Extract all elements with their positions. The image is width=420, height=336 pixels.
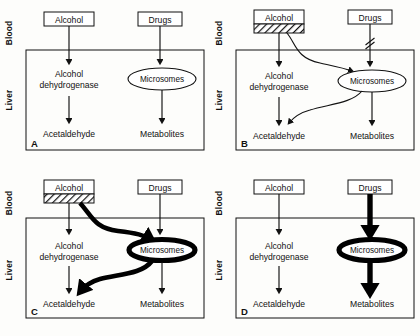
panel-a-metabolites-label: Metabolites: [140, 129, 184, 139]
panel-a-adh-label-line1: Alcohol: [55, 69, 83, 79]
panel-a-acetaldehyde-label: Acetaldehyde: [43, 129, 95, 139]
panel-a-liver-label: Liver: [4, 89, 14, 111]
panel-c-drugs-label: Drugs: [149, 183, 172, 193]
panel-a-alcohol-label: Alcohol: [55, 15, 83, 25]
panel-a-microsomes-label: Microsomes: [140, 75, 184, 84]
panel-d-adh-label-line1: Alcohol: [265, 241, 293, 251]
panel-b-drugs-label: Drugs: [359, 13, 382, 23]
panel-b-liver-label: Liver: [214, 89, 224, 111]
panel-c-adh-label-line2: dehydrogenase: [39, 252, 98, 262]
panel-c-alcohol-load-hatch: [44, 194, 94, 203]
panel-c-alcohol-label: Alcohol: [55, 183, 83, 193]
panel-c-metabolites-label: Metabolites: [140, 299, 184, 309]
panel-c-blood-label: Blood: [4, 191, 14, 216]
panel-c-adh-label-line1: Alcohol: [55, 241, 83, 251]
figure-container: Blood Liver Alcohol Drugs Alcohol dehydr…: [0, 0, 420, 336]
panel-d-microsomes-label: Microsomes: [350, 246, 394, 255]
panel-c-liver-label: Liver: [4, 259, 14, 281]
panel-b-adh-label-line2: dehydrogenase: [249, 82, 308, 92]
panel-a-adh-label-line2: dehydrogenase: [39, 80, 98, 90]
panel-d-alcohol-label: Alcohol: [265, 183, 293, 193]
panel-d-letter: D: [241, 306, 248, 317]
panel-c-microsomes-label: Microsomes: [140, 246, 184, 255]
panel-d-adh-label-line2: dehydrogenase: [249, 252, 308, 262]
panel-c-acetaldehyde-label: Acetaldehyde: [43, 299, 95, 309]
panel-b-alcohol-label: Alcohol: [265, 13, 293, 23]
panel-d-metabolites-label: Metabolites: [350, 299, 394, 309]
panel-a-blood-label: Blood: [4, 21, 14, 46]
panel-b-metabolites-label: Metabolites: [350, 131, 394, 141]
panel-a-letter: A: [31, 138, 38, 149]
panel-a-drugs-label: Drugs: [149, 15, 172, 25]
panel-b-microsomes-label: Microsomes: [350, 77, 394, 86]
panel-b-adh-label-line1: Alcohol: [265, 71, 293, 81]
panel-b-blood-label: Blood: [214, 21, 224, 46]
panel-b-letter: B: [241, 138, 248, 149]
panel-c-letter: C: [31, 306, 38, 317]
panel-d-acetaldehyde-label: Acetaldehyde: [253, 299, 305, 309]
panel-d-drugs-label: Drugs: [359, 183, 382, 193]
panel-b-acetaldehyde-label: Acetaldehyde: [253, 131, 305, 141]
panel-d-blood-label: Blood: [214, 191, 224, 216]
panel-b-alcohol-load-hatch: [254, 24, 304, 33]
panel-d-liver-label: Liver: [214, 259, 224, 281]
metabolism-diagram: Blood Liver Alcohol Drugs Alcohol dehydr…: [0, 0, 420, 336]
